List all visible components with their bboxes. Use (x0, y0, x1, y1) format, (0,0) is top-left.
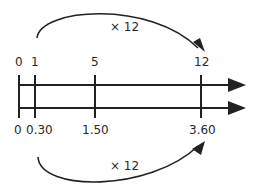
top-tick-label: 12 (194, 55, 209, 69)
top-line-arrowhead-icon (228, 78, 246, 92)
bottom-line-arrowhead-icon (228, 101, 246, 115)
top-tick-label: 0 (15, 55, 23, 69)
top-tick-label: 5 (91, 55, 99, 69)
bottom-multiplier-label: × 12 (110, 159, 139, 173)
top-tick-label: 1 (31, 55, 39, 69)
bottom-tick-label: 0 (14, 123, 22, 137)
top-multiplier-label: × 12 (110, 20, 139, 34)
bottom-arrowhead-icon (192, 141, 205, 155)
bottom-tick-label: 0.30 (26, 123, 53, 137)
double-number-line-diagram: × 12 0 1 5 12 0 0.30 1.50 3.60 × 12 (0, 0, 257, 191)
bottom-tick-label: 1.50 (82, 123, 109, 137)
bottom-tick-label: 3.60 (189, 123, 216, 137)
